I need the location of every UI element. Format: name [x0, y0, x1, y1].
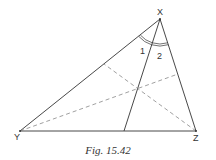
vertex-label-x: X: [157, 8, 163, 17]
bisector-from-x: [124, 19, 160, 131]
dashed-line-from-z: [104, 64, 196, 131]
side-xz: [160, 19, 196, 131]
figure-canvas: X Y Z 1 2 Fig. 15.42: [0, 0, 216, 160]
vertex-label-z: Z: [193, 134, 199, 143]
angle-arc-2: [152, 45, 169, 46]
vertex-label-y: Y: [14, 133, 20, 142]
triangle-diagram: [0, 0, 216, 160]
vertex-dot-z: [195, 130, 197, 132]
vertex-dot-x: [159, 18, 161, 20]
angle-arc-1-inner: [140, 35, 152, 43]
angle-label-1: 1: [140, 47, 145, 56]
side-xy: [20, 19, 160, 131]
angle-arc-1: [139, 36, 152, 44]
angle-arc-2-inner: [152, 43, 167, 44]
figure-caption: Fig. 15.42: [0, 144, 216, 156]
angle-label-2: 2: [157, 52, 162, 61]
dashed-line-from-y: [20, 74, 178, 131]
